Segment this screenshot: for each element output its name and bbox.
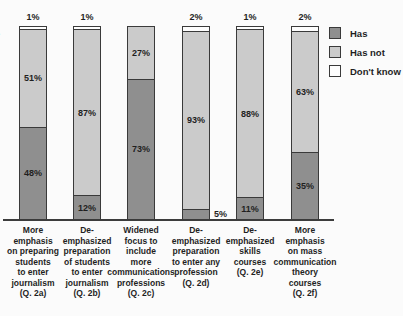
stacked-bar-chart-figure: s 51%48%1%More emphasis on preparing stu… xyxy=(0,0,403,316)
stacked-bar: 63%35% xyxy=(291,26,319,220)
legend-item: Has xyxy=(329,27,401,39)
bar-segment-has-not: 88% xyxy=(237,30,263,198)
legend-swatch-don-t-know xyxy=(329,65,341,77)
value-label: 51% xyxy=(24,73,42,83)
value-label: 27% xyxy=(132,48,150,58)
value-label: 87% xyxy=(78,108,96,118)
legend-swatch-has xyxy=(329,27,341,39)
value-label: 12% xyxy=(78,203,96,213)
bar-segment-has-not: 51% xyxy=(20,30,46,128)
value-label-dont-know: 1% xyxy=(228,12,272,22)
bar-segment-has: 48% xyxy=(20,128,46,219)
value-label: 88% xyxy=(241,109,259,119)
value-label: 48% xyxy=(24,168,42,178)
legend-item: Has not xyxy=(329,46,401,58)
bar-segment-has: 12% xyxy=(74,196,100,219)
bar-segment-has xyxy=(183,210,209,220)
value-label: 35% xyxy=(296,181,314,191)
legend: HasHas notDon't know xyxy=(329,27,401,77)
category-label: More emphasis on mass communication theo… xyxy=(265,225,345,299)
bar-segment-has: 11% xyxy=(237,198,263,219)
legend-item: Don't know xyxy=(329,65,401,77)
legend-label: Don't know xyxy=(350,66,401,77)
cropped-axis-label-fragment: s xyxy=(0,26,4,40)
x-axis-line xyxy=(3,219,334,221)
bar-segment-has: 35% xyxy=(292,153,318,220)
value-label-dont-know: 1% xyxy=(11,12,55,22)
bar-segment-has: 73% xyxy=(128,80,154,219)
value-label-dont-know: 2% xyxy=(174,12,218,22)
value-label: 63% xyxy=(296,87,314,97)
legend-label: Has not xyxy=(350,47,385,58)
bar-segment-has-not: 27% xyxy=(128,27,154,80)
value-label-dont-know: 1% xyxy=(65,12,109,22)
bar-segment-has-not: 93% xyxy=(183,32,209,210)
legend-swatch-has-not xyxy=(329,46,341,58)
legend-label: Has xyxy=(350,28,367,39)
bar-segment-has-not: 87% xyxy=(74,30,100,196)
stacked-bar: 51%48% xyxy=(19,26,47,220)
bar-segment-has-not: 63% xyxy=(292,32,318,153)
value-label: 93% xyxy=(187,115,205,125)
value-label: 73% xyxy=(132,144,150,154)
stacked-bar: 87%12% xyxy=(73,26,101,220)
value-label: 11% xyxy=(241,204,259,214)
stacked-bar: 27%73% xyxy=(127,26,155,220)
stacked-bar: 88%11% xyxy=(236,26,264,220)
value-label-outside: 5% xyxy=(214,209,227,219)
value-label-dont-know: 2% xyxy=(283,12,327,22)
stacked-bar: 93% xyxy=(182,26,210,220)
